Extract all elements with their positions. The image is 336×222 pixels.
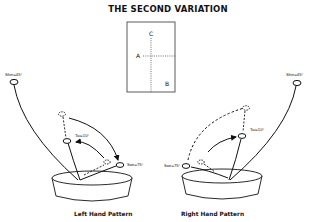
left-shin-label: Shin=45° bbox=[5, 72, 22, 77]
right-soe-label: Soe=75° bbox=[164, 163, 181, 168]
right-vase bbox=[182, 169, 262, 199]
grid-label-a: A bbox=[136, 52, 141, 59]
left-soe-label: Soe=75° bbox=[127, 162, 144, 167]
right-tai-label: Tai=10° bbox=[250, 127, 264, 132]
placement-grid: C A B bbox=[127, 22, 175, 92]
right-soe-tip bbox=[182, 164, 190, 169]
ikebana-diagram: C A B Shin=45° Tai=10° Soe=75° bbox=[0, 0, 336, 222]
left-shin-tip bbox=[10, 79, 18, 84]
grid-label-c: C bbox=[149, 30, 153, 37]
left-hand-caption: Left Hand Pattern bbox=[74, 211, 132, 217]
right-shin-tip bbox=[293, 80, 301, 85]
left-tai-tip bbox=[63, 139, 71, 144]
right-tai-tip bbox=[238, 134, 246, 139]
left-hand-pattern: Shin=45° Tai=10° Soe=75° bbox=[5, 72, 144, 201]
right-shin-label: Shin=45° bbox=[286, 72, 303, 77]
right-hand-pattern: Shin=45° Tai=10° Soe=75° bbox=[164, 72, 303, 199]
left-soe-tip bbox=[116, 163, 124, 168]
right-hand-caption: Right Hand Pattern bbox=[181, 211, 244, 217]
left-tai-label: Tai=10° bbox=[75, 133, 89, 138]
grid-label-b: B bbox=[165, 80, 169, 87]
